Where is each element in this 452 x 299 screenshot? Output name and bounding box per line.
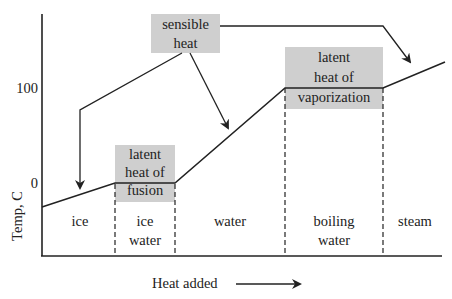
latent-vaporization-label: latent heat of vaporization xyxy=(285,49,383,105)
phase-steam: steam xyxy=(385,213,445,229)
phase-ice-water: ice water xyxy=(115,213,175,248)
x-axis-label: Heat added xyxy=(152,275,232,291)
phase-water: water xyxy=(200,213,260,229)
y-tick-100: 100 xyxy=(12,80,38,96)
heating-curve-graphic xyxy=(0,0,452,299)
y-axis-label: Temp, C xyxy=(9,186,25,246)
sensible-heat-label: sensible heat xyxy=(151,16,220,51)
latent-fusion-label: latent heat of fusion xyxy=(115,146,175,198)
phase-boiling-water: boiling water xyxy=(285,213,383,248)
phase-ice: ice xyxy=(50,213,110,229)
arrow-to-water-segment xyxy=(190,53,228,128)
heating-curve-line xyxy=(42,62,445,207)
